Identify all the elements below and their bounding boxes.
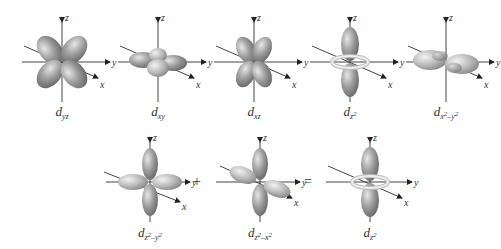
svg-text:z: z — [152, 132, 157, 143]
svg-text:x: x — [195, 79, 201, 90]
label-dxz: dxz — [247, 104, 260, 121]
plus-operator: + — [193, 174, 201, 190]
svg-text:z: z — [352, 12, 357, 23]
svg-text:z: z — [64, 12, 69, 23]
svg-text:z: z — [372, 132, 377, 143]
equals-operator: = — [304, 174, 312, 190]
svg-text:x: x — [99, 79, 105, 90]
svg-text:z: z — [262, 132, 267, 143]
label-dz2-y2: dz2–y2 — [138, 225, 162, 242]
svg-text:x: x — [403, 197, 409, 208]
label-dyz: dyz — [55, 104, 68, 121]
svg-text:y: y — [495, 57, 501, 68]
label-dz2: dz2 — [343, 104, 356, 121]
svg-text:z: z — [160, 12, 165, 23]
svg-text:x: x — [387, 79, 393, 90]
svg-text:x: x — [483, 79, 489, 90]
label-dxy: dxy — [151, 104, 165, 121]
svg-text:y: y — [413, 177, 419, 188]
label-dz2-result: dz2 — [363, 225, 376, 242]
svg-text:z: z — [256, 12, 261, 23]
dz2-y2-orbital-icon: z y x — [100, 130, 200, 240]
svg-text:x: x — [181, 201, 187, 212]
label-dz2-x2: dz2–x2 — [248, 225, 272, 242]
svg-text:x: x — [293, 197, 299, 208]
label-dx2-y2: dx2–y2 — [434, 104, 459, 121]
dz2-x2-orbital-icon: z y x — [210, 130, 310, 240]
svg-text:z: z — [448, 12, 453, 23]
svg-text:x: x — [291, 79, 297, 90]
dz2-result-orbital-icon: z y x — [320, 130, 420, 240]
